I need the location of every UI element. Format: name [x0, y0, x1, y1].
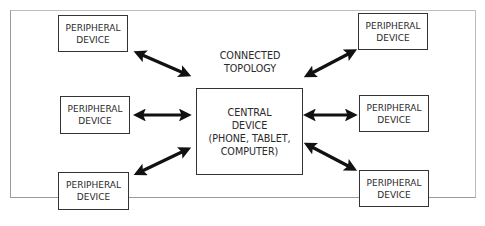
peripheral-label-line: PERIPHERAL [66, 22, 121, 34]
peripheral-device-top-left: PERIPHERAL DEVICE [58, 15, 128, 52]
diagram-title: CONNECTED TOPOLOGY [200, 49, 300, 75]
arrow-bottom-right-icon [310, 146, 352, 168]
peripheral-label-line: DEVICE [76, 34, 109, 46]
peripheral-device-middle-left: PERIPHERAL DEVICE [60, 96, 130, 134]
peripheral-device-bottom-right: PERIPHERAL DEVICE [359, 170, 429, 207]
peripheral-label-line: PERIPHERAL [68, 103, 123, 115]
peripheral-label-line: PERIPHERAL [66, 179, 121, 191]
central-label-line: CENTRAL [228, 106, 272, 119]
central-label-line: (PHONE, TABLET, [208, 132, 290, 145]
peripheral-label-line: DEVICE [376, 32, 409, 44]
title-line: TOPOLOGY [200, 62, 300, 75]
arrow-bottom-left-icon [140, 150, 186, 172]
central-label-line: COMPUTER) [221, 145, 279, 158]
peripheral-device-bottom-left: PERIPHERAL DEVICE [58, 172, 129, 210]
peripheral-label-line: PERIPHERAL [367, 102, 422, 114]
peripheral-label-line: DEVICE [77, 191, 110, 203]
peripheral-label-line: DEVICE [78, 115, 111, 127]
title-line: CONNECTED [200, 49, 300, 62]
peripheral-label-line: PERIPHERAL [366, 20, 421, 32]
peripheral-label-line: DEVICE [377, 189, 410, 201]
peripheral-label-line: PERIPHERAL [367, 177, 422, 189]
central-label-line: DEVICE [232, 119, 268, 132]
peripheral-device-middle-right: PERIPHERAL DEVICE [359, 95, 429, 132]
peripheral-label-line: DEVICE [377, 114, 410, 126]
peripheral-device-top-right: PERIPHERAL DEVICE [358, 13, 428, 50]
central-device-box: CENTRAL DEVICE (PHONE, TABLET, COMPUTER) [196, 88, 303, 175]
arrow-top-right-icon [310, 52, 352, 74]
arrow-top-left-icon [140, 54, 186, 74]
